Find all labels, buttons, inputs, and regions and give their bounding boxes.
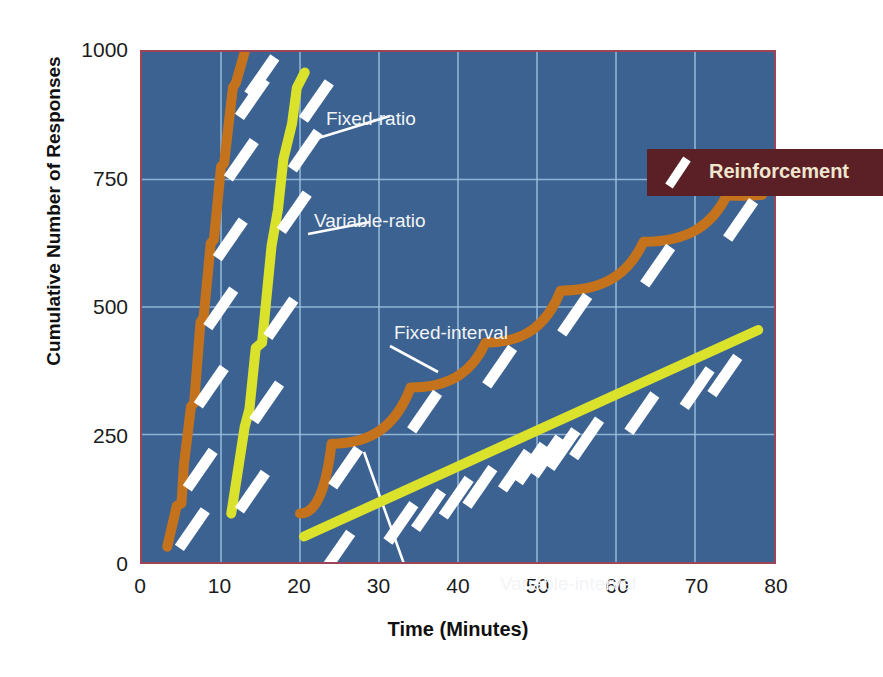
reinforcement-mark (333, 449, 359, 486)
callout-fixed-interval: Fixed-interval (394, 322, 508, 344)
x-tick-label: 40 (446, 574, 469, 598)
reinforcement-mark (388, 504, 414, 541)
x-axis-title: Time (Minutes) (140, 618, 776, 641)
reinforcement-mark (728, 201, 754, 238)
reinforcement-mark (239, 473, 265, 510)
series-variable-interval (304, 330, 758, 562)
reinforcement-mark (487, 348, 513, 385)
reinforcement-mark (254, 384, 280, 421)
x-tick-label: 70 (685, 574, 708, 598)
reinforcement-mark (292, 132, 318, 169)
callout-variable-ratio: Variable-ratio (314, 210, 426, 232)
reinforcement-mark (412, 393, 438, 430)
reinforcement-mark (645, 247, 671, 284)
legend-box: Reinforcement (647, 149, 883, 196)
x-tick-label: 80 (764, 574, 787, 598)
legend-label: Reinforcement (709, 160, 849, 183)
callout-variable-interval: Variable-interval (500, 573, 636, 595)
x-tick-label: 0 (134, 574, 146, 598)
series-variable-ratio (231, 72, 329, 513)
reinforcement-mark (712, 357, 738, 394)
reinforcement-mark (179, 510, 205, 547)
y-tick-label: 0 (0, 552, 128, 576)
plot-svg (142, 52, 774, 562)
reinforcement-mark (467, 468, 493, 505)
reinforcement-tick-icon (661, 156, 695, 189)
reinforcement-mark (416, 491, 442, 528)
y-axis-title: Cumulative Number of Responses (43, 51, 65, 371)
reinforcement-mark (443, 479, 469, 516)
reinforcement-mark (325, 533, 351, 562)
callout-leader-line (390, 346, 438, 372)
series-line (231, 72, 304, 513)
reinforcement-mark (187, 451, 213, 488)
plot-area: Reinforcement Fixed-ratio Variable-ratio… (140, 50, 776, 564)
reinforcement-mark (574, 420, 600, 457)
reinforcement-mark (228, 141, 254, 178)
reinforcement-mark (684, 369, 710, 406)
x-tick-label: 10 (208, 574, 231, 598)
x-tick-label: 20 (287, 574, 310, 598)
reinforcement-mark (629, 395, 655, 432)
reinforcement-mark (268, 300, 294, 337)
x-tick-label: 30 (367, 574, 390, 598)
callout-fixed-ratio: Fixed-ratio (326, 108, 416, 130)
y-tick-label: 250 (0, 424, 128, 448)
reinforcement-mark (281, 194, 307, 231)
reinforcement-mark (562, 296, 588, 333)
